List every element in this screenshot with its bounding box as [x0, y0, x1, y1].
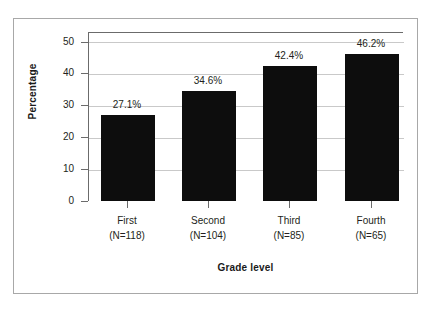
bar-second	[182, 91, 236, 201]
y-tick-mark-0	[81, 201, 88, 202]
y-tick-mark-50	[81, 42, 88, 43]
bar-value-label-fourth: 46.2%	[334, 38, 408, 49]
bar-value-label-first: 27.1%	[90, 99, 164, 110]
y-tick-label-50: 50	[44, 37, 74, 47]
y-tick-text-20: 20	[44, 132, 74, 142]
x-category-name-fourth: Fourth	[334, 213, 408, 228]
x-category-n-third: (N=85)	[252, 228, 326, 243]
y-tick-text-0: 0	[44, 196, 74, 206]
y-tick-label-20: 20	[44, 132, 74, 142]
x-category-name-second: Second	[171, 213, 245, 228]
x-category-name-first: First	[90, 213, 164, 228]
y-tick-label-10: 10	[44, 164, 74, 174]
y-tick-text-30: 30	[44, 100, 74, 110]
x-category-n-first: (N=118)	[90, 228, 164, 243]
y-tick-label-30: 30	[44, 100, 74, 110]
y-tick-mark-30	[81, 105, 88, 106]
y-tick-label-40: 40	[44, 68, 74, 78]
y-tick-mark-40	[81, 73, 88, 74]
x-category-n-second: (N=104)	[171, 228, 245, 243]
y-tick-text-40: 40	[44, 68, 74, 78]
y-tick-text-50: 50	[44, 37, 74, 47]
bar-first	[101, 115, 155, 201]
x-axis-title: Grade level	[88, 262, 403, 273]
bar-value-label-second: 34.6%	[171, 75, 245, 86]
x-tick-mark-third	[289, 201, 290, 208]
figure: 50 40 30 20 10 0 27.1% 34.6% 42.4% 46.2%	[0, 0, 433, 311]
x-tick-mark-second	[208, 201, 209, 208]
bar-value-label-third: 42.4%	[252, 50, 326, 61]
plot-area	[88, 32, 403, 201]
y-axis-title: Percentage	[27, 52, 38, 132]
y-tick-mark-20	[81, 137, 88, 138]
x-category-second: Second (N=104)	[171, 213, 245, 243]
y-tick-mark-10	[81, 169, 88, 170]
bar-third	[263, 66, 317, 201]
x-category-third: Third (N=85)	[252, 213, 326, 243]
x-category-fourth: Fourth (N=65)	[334, 213, 408, 243]
y-tick-label-0: 0	[44, 196, 74, 206]
x-category-first: First (N=118)	[90, 213, 164, 243]
x-tick-mark-fourth	[371, 201, 372, 208]
x-category-name-third: Third	[252, 213, 326, 228]
x-tick-mark-first	[127, 201, 128, 208]
x-category-n-fourth: (N=65)	[334, 228, 408, 243]
bar-fourth	[345, 54, 399, 201]
y-tick-text-10: 10	[44, 164, 74, 174]
